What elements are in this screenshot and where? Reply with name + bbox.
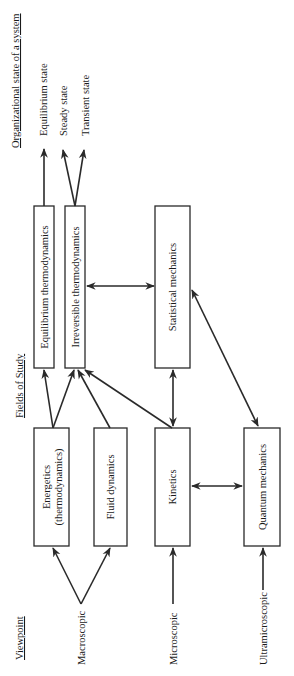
box-kinetics: Kinetics (155, 428, 190, 546)
viewpoint-macroscopic: Macroscopic (76, 610, 87, 665)
header-fields: Fields of Study (14, 353, 25, 418)
viewpoint-microscopic: Microscopic (168, 612, 179, 665)
svg-text:Fluid dynamics: Fluid dynamics (105, 454, 116, 519)
box-statistical-mechanics: Statistical mechanics (155, 206, 190, 368)
svg-text:Irreversible thermodynamics: Irreversible thermodynamics (70, 227, 81, 348)
arrow-irreversible-transient (75, 150, 84, 206)
svg-text:Kinetics: Kinetics (167, 470, 178, 505)
state-equilibrium: Equilibrium state (38, 63, 49, 136)
state-transient: Transient state (80, 75, 91, 136)
arrow-energetics-irreversible (53, 370, 74, 428)
header-viewpoint: Viewpoint (14, 616, 25, 660)
arrow-energetics-equilibrium (44, 370, 53, 428)
viewpoint-ultramicroscopic: Ultramicroscopic (258, 592, 269, 665)
arrow-kinetics-irreversible (85, 370, 172, 428)
box-energetics: Energetics (thermodynamics) (34, 428, 69, 546)
arrow-statistical-quantum (192, 290, 258, 426)
arrow-macroscopic-energetics (53, 548, 81, 604)
box-equilibrium-thermodynamics: Equilibrium thermodynamics (34, 206, 54, 368)
box-irreversible-thermodynamics: Irreversible thermodynamics (65, 206, 85, 368)
svg-text:(thermodynamics): (thermodynamics) (53, 448, 65, 525)
svg-text:Quantum mechanics: Quantum mechanics (257, 444, 268, 530)
box-fluid-dynamics: Fluid dynamics (94, 428, 127, 546)
arrow-macroscopic-fluid (81, 548, 110, 604)
svg-text:Energetics: Energetics (41, 465, 52, 509)
header-states: Organizational state of a system (10, 13, 21, 148)
svg-text:Statistical mechanics: Statistical mechanics (167, 243, 178, 331)
arrow-irreversible-steady (63, 150, 75, 206)
diagram-canvas: Organizational state of a system Fields … (0, 0, 294, 676)
svg-text:Equilibrium thermodynamics: Equilibrium thermodynamics (39, 225, 50, 348)
box-quantum-mechanics: Quantum mechanics (244, 428, 280, 546)
state-steady: Steady state (58, 85, 69, 136)
arrow-fluid-irreversible (78, 370, 110, 428)
